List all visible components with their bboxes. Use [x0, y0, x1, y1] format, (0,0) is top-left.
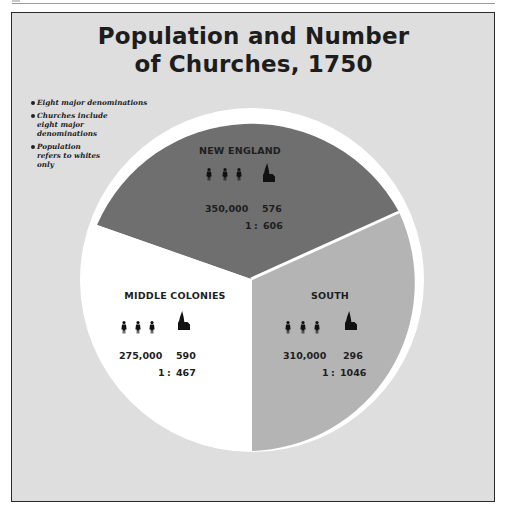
region-name: NEW ENGLAND — [190, 145, 290, 156]
ratio-separator: : — [331, 367, 335, 378]
churches-value: 590 — [176, 350, 196, 361]
ratio-left: 1 — [158, 367, 165, 378]
region-name: SOUTH — [300, 290, 360, 301]
population-value: 310,000 — [283, 350, 326, 361]
ratio-separator: : — [254, 220, 258, 231]
population-value: 275,000 — [119, 350, 162, 361]
ratio-separator: : — [167, 367, 171, 378]
churches-value: 296 — [343, 350, 363, 361]
region-name: MIDDLE COLONIES — [110, 290, 240, 301]
ratio-right: 606 — [263, 220, 283, 231]
region-label-new-england: NEW ENGLAND — [190, 145, 290, 156]
pie-chart — [0, 0, 507, 520]
churches-value: 576 — [262, 203, 282, 214]
population-value: 350,000 — [205, 203, 248, 214]
ratio-right: 467 — [176, 367, 196, 378]
ratio-left: 1 — [322, 367, 329, 378]
ratio-left: 1 — [245, 220, 252, 231]
ratio-right: 1046 — [340, 367, 366, 378]
region-label-middle-colonies: MIDDLE COLONIES — [110, 290, 240, 301]
region-label-south: SOUTH — [300, 290, 360, 301]
